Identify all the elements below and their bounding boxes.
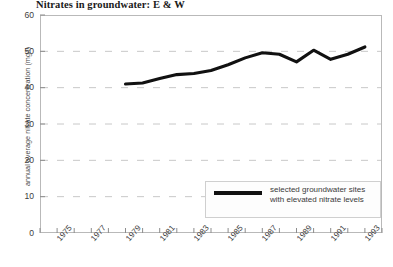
y-tick-label: 50 bbox=[2, 46, 34, 56]
y-tick-label: 20 bbox=[2, 155, 34, 165]
legend-line-swatch bbox=[214, 191, 262, 195]
legend-entry-label: selected groundwater sites with elevated… bbox=[270, 185, 378, 206]
y-tick-label: 0 bbox=[2, 228, 34, 238]
chart-title: Nitrates in groundwater: E & W bbox=[36, 0, 185, 10]
y-tick-label: 40 bbox=[2, 82, 34, 92]
legend: selected groundwater sites with elevated… bbox=[205, 181, 381, 218]
y-tick-label: 10 bbox=[2, 191, 34, 201]
y-tick-label: 30 bbox=[2, 119, 34, 129]
nitrates-line-chart: Nitrates in groundwater: E & W annual av… bbox=[0, 0, 393, 267]
y-tick-label: 60 bbox=[2, 10, 34, 20]
y-axis-title: annual average nitrate concentration (mg… bbox=[23, 12, 32, 222]
